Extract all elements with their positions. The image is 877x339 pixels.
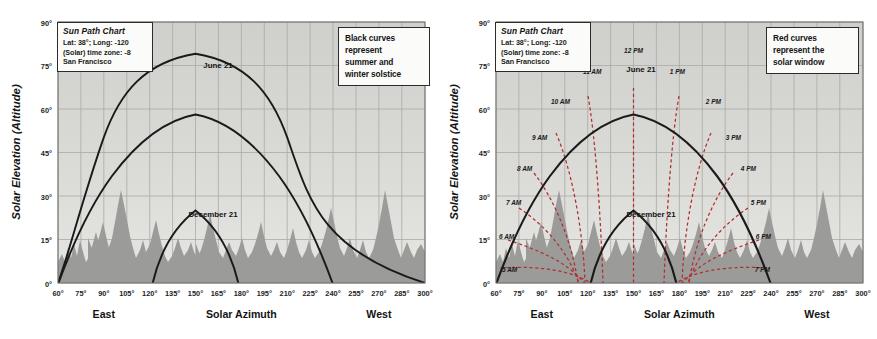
info-box-location: San Francisco [63, 57, 147, 67]
x-axis-title: Solar Azimuth [206, 308, 277, 320]
ytick-15: 15° [479, 236, 490, 245]
hour-label-2pm: 2 PM [705, 98, 722, 105]
hour-label-3pm: 3 PM [726, 134, 742, 141]
xtick-105: 105° [557, 289, 572, 298]
xtick-75: 75° [75, 289, 86, 298]
x-axis-ticklabels: 60° 75° 90° 105° 120° 135° 150° 165° 180… [52, 289, 432, 298]
xtick-60: 60° [490, 289, 501, 298]
info-box-right: Sun Path Chart Lat: 38°; Long: -120 (Sol… [495, 22, 591, 72]
hour-label-1pm: 1 PM [670, 68, 686, 75]
info-box-left: Sun Path Chart Lat: 38°; Long: -120 (Sol… [57, 22, 153, 72]
hour-label-5pm: 5 PM [751, 199, 767, 206]
xtick-285: 285° [832, 289, 847, 298]
callout-red-curves: Red curves represent the solar window [766, 27, 859, 74]
callout-black-curves: Black curves represent summer and winter… [338, 27, 430, 86]
x-axis-ticklabels: 60° 75° 90° 105° 120° 135° 150° 165° 180… [490, 289, 870, 298]
info-box-title: Sun Path Chart [501, 26, 585, 37]
ytick-75: 75° [41, 62, 52, 71]
callout-line-1: Black curves [345, 32, 423, 44]
xtick-225: 225° [302, 289, 317, 298]
xtick-150: 150° [188, 289, 203, 298]
xtick-60: 60° [52, 289, 63, 298]
xtick-240: 240° [763, 289, 778, 298]
ytick-75: 75° [479, 62, 490, 71]
hour-label-6pm: 6 PM [756, 233, 772, 240]
xtick-285: 285° [394, 289, 409, 298]
xtick-75: 75° [513, 289, 524, 298]
xtick-255: 255° [786, 289, 801, 298]
xtick-180: 180° [672, 289, 687, 298]
callout-line-2: represent [345, 44, 423, 56]
callout-line-3: summer and [345, 56, 423, 68]
info-box-lat-long: Lat: 38°; Long: -120 [501, 38, 585, 48]
y-axis-ticklabels: 90° 75° 60° 45° 30° 15° 0° [479, 19, 490, 289]
y-axis-ticklabels: 90° 75° 60° 45° 30° 15° 0° [41, 19, 52, 289]
xtick-120: 120° [142, 289, 157, 298]
sun-path-panel-left: 90° 75° 60° 45° 30° 15° 0° 60° 75° 90° 1… [0, 0, 438, 339]
x-region-label-west: West [366, 308, 392, 320]
xtick-150: 150° [626, 289, 641, 298]
xtick-180: 180° [234, 289, 249, 298]
december-21-label: December 21 [626, 210, 676, 219]
xtick-135: 135° [603, 289, 618, 298]
x-region-label-west: West [804, 308, 830, 320]
ytick-60: 60° [479, 106, 490, 115]
y-axis-title: Solar Elevation (Altitude) [10, 84, 22, 220]
ytick-30: 30° [41, 193, 52, 202]
callout-line-3: solar window [773, 56, 852, 68]
xtick-240: 240° [325, 289, 340, 298]
sun-path-panel-right: 5 AM 6 AM 7 AM 8 AM 9 AM 10 AM 11 AM 12 … [438, 0, 876, 339]
xtick-255: 255° [348, 289, 363, 298]
callout-line-1: Red curves [773, 32, 852, 44]
xtick-105: 105° [119, 289, 134, 298]
hour-label-12pm: 12 PM [624, 47, 643, 54]
xtick-300: 300° [855, 289, 870, 298]
y-axis-title: Solar Elevation (Altitude) [448, 84, 460, 220]
x-region-label-east: East [93, 308, 116, 320]
xtick-225: 225° [740, 289, 755, 298]
hour-label-4pm: 4 PM [740, 165, 757, 172]
xtick-90: 90° [536, 289, 547, 298]
xtick-120: 120° [580, 289, 595, 298]
xtick-270: 270° [809, 289, 824, 298]
ytick-0: 0° [483, 280, 490, 289]
callout-line-4: winter solstice [345, 68, 423, 80]
ytick-45: 45° [41, 149, 52, 158]
info-box-lat-long: Lat: 38°; Long: -120 [63, 38, 147, 48]
ytick-30: 30° [479, 193, 490, 202]
callout-line-2: represent the [773, 44, 852, 56]
xtick-210: 210° [718, 289, 733, 298]
ytick-15: 15° [41, 236, 52, 245]
info-box-title: Sun Path Chart [63, 26, 147, 37]
sun-path-chart-figure: 90° 75° 60° 45° 30° 15° 0° 60° 75° 90° 1… [0, 0, 877, 339]
ytick-45: 45° [479, 149, 490, 158]
hour-label-5am: 5 AM [502, 266, 518, 273]
hour-label-7am: 7 AM [506, 199, 522, 206]
info-box-timezone: (Solar) time zone: -8 [501, 48, 585, 58]
xtick-165: 165° [649, 289, 664, 298]
xtick-300: 300° [417, 289, 432, 298]
ytick-90: 90° [41, 19, 52, 28]
xtick-270: 270° [371, 289, 386, 298]
hour-label-8am: 8 AM [517, 165, 533, 172]
hour-label-10am: 10 AM [551, 98, 570, 105]
ytick-60: 60° [41, 106, 52, 115]
xtick-90: 90° [98, 289, 109, 298]
x-region-label-east: East [531, 308, 554, 320]
xtick-165: 165° [211, 289, 226, 298]
ytick-0: 0° [45, 280, 52, 289]
x-axis-title: Solar Azimuth [644, 308, 715, 320]
hour-label-9am: 9 AM [532, 134, 548, 141]
xtick-195: 195° [695, 289, 710, 298]
june-21-label: June 21 [203, 61, 233, 70]
ytick-90: 90° [479, 19, 490, 28]
xtick-135: 135° [165, 289, 180, 298]
december-21-label: December 21 [188, 210, 238, 219]
hour-label-7pm: 7 PM [755, 266, 771, 273]
info-box-timezone: (Solar) time zone: -8 [63, 48, 147, 58]
info-box-location: San Francisco [501, 57, 585, 67]
xtick-210: 210° [280, 289, 295, 298]
xtick-195: 195° [257, 289, 272, 298]
hour-label-6am: 6 AM [499, 233, 515, 240]
june-21-label: June 21 [626, 65, 656, 74]
